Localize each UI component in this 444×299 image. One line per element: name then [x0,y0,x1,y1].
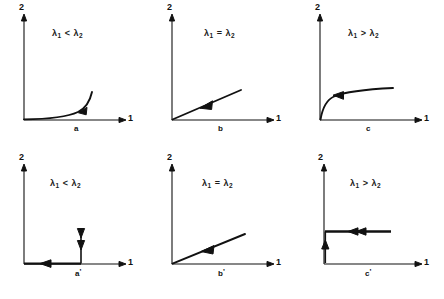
x-axis-arrowhead [415,261,422,266]
x-axis-label: 1 [424,113,429,123]
lambda-2-subscript: 2 [229,182,233,189]
relation-symbol: < [63,178,69,188]
trajectory-curve [321,88,394,120]
trajectory-arrowhead [200,101,213,110]
lambda-1-subscript: 1 [210,32,214,39]
y-axis-arrowhead [169,14,174,21]
y-axis-label: 2 [167,2,172,12]
panel-b: λ1=λ2 2 1 b [148,0,296,149]
trajectory-arrowhead-left [40,260,51,268]
panel-letter: a' [75,267,81,278]
x-axis-arrowhead [267,261,274,266]
relation-symbol: < [65,28,71,38]
condition-label: λ1<λ2 [50,178,81,189]
lambda-1-subscript: 1 [208,182,212,189]
trajectory-arrowhead [333,92,344,100]
lambda-1-subscript: 1 [356,182,360,189]
y-axis-label: 2 [19,2,24,12]
x-axis-label: 1 [276,113,281,123]
y-axis-label: 2 [315,2,320,12]
y-axis-label: 2 [167,152,172,162]
condition-label: λ1=λ2 [202,178,233,189]
y-axis-arrowhead [169,164,174,171]
panel-letter: c' [365,267,371,278]
lambda-2-subscript: 2 [375,32,379,39]
lambda-1-subscript: 1 [58,32,62,39]
panel-letter: b' [218,267,225,278]
figure-canvas: λ1<λ2 2 1 a λ1=λ2 2 1 b [0,0,444,299]
vertical-riser-arrowhead [322,240,329,249]
lambda-2-subscript: 2 [79,32,83,39]
panel-a: λ1<λ2 2 1 a [0,0,148,149]
x-axis-arrowhead [415,117,422,122]
y-axis-label: 2 [318,152,323,162]
panel-letter: b [218,122,223,133]
x-axis-label: 1 [128,113,133,123]
condition-label: λ1>λ2 [350,178,381,189]
panel-a-prime-plot [0,150,148,299]
panel-b-prime: λ1=λ2 2 1 b' [148,150,296,299]
vertical-arrowhead-upper [77,229,84,239]
relation-symbol: = [217,28,223,38]
panel-letter: c [366,122,370,133]
x-axis-arrowhead [119,117,126,122]
y-axis-arrowhead [317,14,322,21]
lambda-1-subscript: 1 [56,182,60,189]
panel-a-prime: λ1<λ2 2 1 a' [0,150,148,299]
relation-symbol: > [361,28,367,38]
lambda-2-subscript: 2 [77,182,81,189]
x-axis-label: 1 [276,257,281,267]
panel-c-prime: λ1>λ2 2 1 c' [296,150,444,299]
x-axis-arrowhead [119,261,126,266]
trajectory-curve [24,92,92,119]
lambda-2-subscript: 2 [377,182,381,189]
condition-label: λ1=λ2 [204,28,235,39]
relation-symbol: > [363,178,369,188]
x-axis-arrowhead [267,117,274,122]
relation-symbol: = [215,178,221,188]
condition-label: λ1<λ2 [52,28,83,39]
lambda-2-subscript: 2 [231,32,235,39]
x-axis-label: 1 [424,257,429,267]
y-axis-arrowhead [321,164,326,171]
vertical-arrowhead-lower [77,241,84,251]
lambda-1-subscript: 1 [354,32,358,39]
y-axis-label: 2 [19,152,24,162]
y-axis-arrowhead [21,14,26,21]
panel-c: λ1>λ2 2 1 c [296,0,444,149]
x-axis-label: 1 [128,257,133,267]
trajectory-arrowhead [201,246,214,255]
condition-label: λ1>λ2 [348,28,379,39]
panel-letter: a [74,122,78,133]
y-axis-arrowhead [21,164,26,171]
